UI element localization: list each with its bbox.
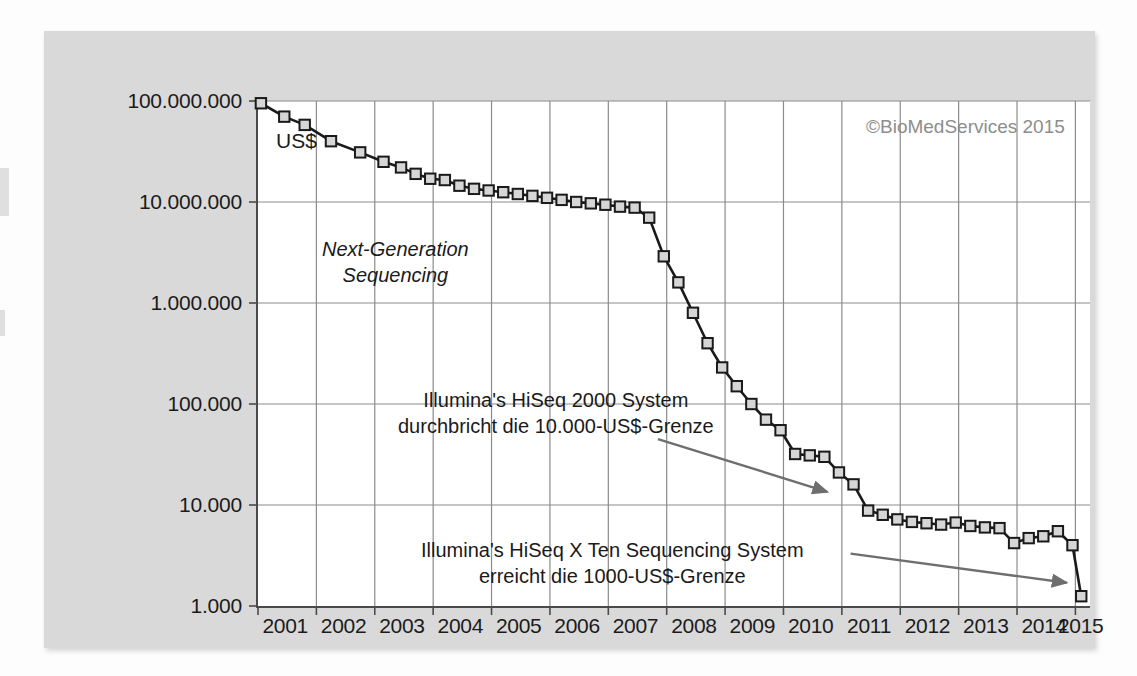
- y-tick-label: 1.000.000: [150, 291, 242, 315]
- x-tick-label: 2009: [730, 614, 776, 638]
- y-tick-label: 100.000.000: [127, 89, 242, 113]
- nextgen-line-1: Next-Generation: [322, 236, 469, 262]
- annotation-hiseq-2000: Illumina's HiSeq 2000 System durchbricht…: [398, 388, 714, 439]
- annotation-arrows: [258, 101, 1090, 606]
- y-tick-label: 100.000: [167, 392, 242, 416]
- x-tick-label: 2004: [438, 614, 484, 638]
- x-tick-label: 2015: [1058, 614, 1104, 638]
- scan-artifact: [0, 310, 5, 336]
- x-tick-label: 2008: [671, 614, 717, 638]
- annotation-hiseq-2000-line-1: Illumina's HiSeq 2000 System: [398, 388, 714, 414]
- figure-panel: 100.000.00010.000.0001.000.000100.00010.…: [44, 31, 1095, 648]
- scan-artifact: [0, 168, 9, 216]
- scanned-page: 100.000.00010.000.0001.000.000100.00010.…: [0, 0, 1137, 676]
- next-generation-sequencing-label: Next-Generation Sequencing: [322, 236, 469, 288]
- x-tick-label: 2006: [554, 614, 600, 638]
- annotation-hiseq-x-ten-line-2: erreicht die 1000-US$-Grenze: [421, 564, 804, 590]
- annotation-hiseq-x-ten-line-1: Illumina's HiSeq X Ten Sequencing System: [421, 538, 804, 564]
- x-tick-label: 2012: [905, 614, 951, 638]
- y-axis-unit-label: US$: [276, 129, 317, 153]
- plot-area: [256, 101, 1090, 608]
- x-tick-label: 2013: [963, 614, 1009, 638]
- x-axis-ticks: 2001200220032004200520062007200820092010…: [256, 614, 1088, 648]
- x-tick-label: 2007: [613, 614, 659, 638]
- x-tick-label: 2011: [847, 614, 891, 638]
- x-tick-label: 2003: [379, 614, 425, 638]
- annotation-hiseq-x-ten: Illumina's HiSeq X Ten Sequencing System…: [421, 538, 804, 589]
- copyright-notice: ©BioMedServices 2015: [866, 116, 1065, 138]
- y-tick-label: 10.000: [179, 493, 242, 517]
- nextgen-line-2: Sequencing: [322, 262, 469, 288]
- annotation-hiseq-2000-line-2: durchbricht die 10.000-US$-Grenze: [398, 414, 714, 440]
- y-axis-ticks: 100.000.00010.000.0001.000.000100.00010.…: [44, 101, 242, 606]
- x-tick-label: 2001: [262, 614, 308, 638]
- y-tick-label: 1.000: [190, 594, 242, 618]
- x-tick-label: 2005: [496, 614, 542, 638]
- x-tick-label: 2010: [788, 614, 834, 638]
- x-tick-label: 2002: [321, 614, 367, 638]
- y-tick-label: 10.000.000: [139, 190, 242, 214]
